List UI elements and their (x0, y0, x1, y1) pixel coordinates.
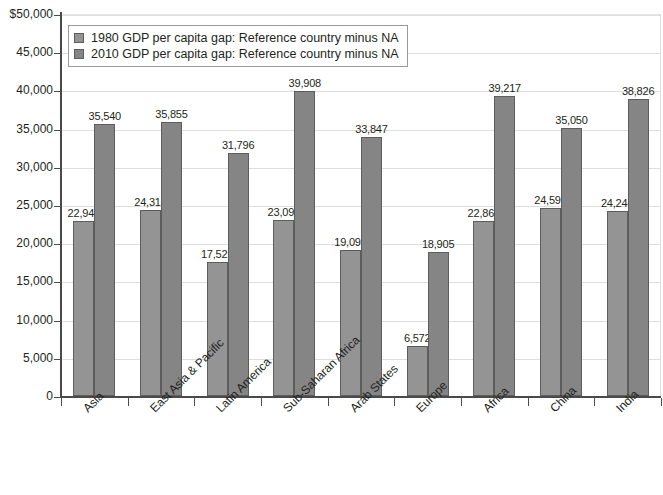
x-axis-tick (261, 398, 262, 406)
bar-chart: 22,94335,54024,31635,85517,52931,79623,0… (0, 0, 663, 495)
y-axis-tick-label: 15,000 (0, 275, 53, 287)
legend-item[interactable]: 1980 GDP per capita gap: Reference count… (74, 30, 399, 46)
y-axis-tick-label: 30,000 (0, 161, 53, 173)
x-axis-tick (661, 398, 662, 406)
chart-legend: 1980 GDP per capita gap: Reference count… (68, 25, 408, 67)
bar-value-label: 38,826 (616, 86, 660, 97)
legend-swatch-icon (74, 33, 84, 43)
x-axis-tick (194, 398, 195, 406)
y-axis-tick-label: 10,000 (0, 314, 53, 326)
x-axis-tick (61, 398, 62, 406)
legend-item-label: 1980 GDP per capita gap: Reference count… (91, 31, 399, 45)
x-axis-tick (328, 398, 329, 406)
legend-item-label: 2010 GDP per capita gap: Reference count… (91, 47, 399, 61)
legend-item[interactable]: 2010 GDP per capita gap: Reference count… (74, 46, 399, 62)
y-axis-tick-label: 0 (0, 390, 53, 402)
x-axis-tick (528, 398, 529, 406)
y-axis-tick-label: 35,000 (0, 123, 53, 135)
plot-area: 22,94335,54024,31635,85517,52931,79623,0… (61, 14, 661, 396)
x-axis-tick (128, 398, 129, 406)
x-axis-tick (394, 398, 395, 406)
y-axis-tick-label: 45,000 (0, 46, 53, 58)
y-axis-labels: $50,00045,00040,00035,00030,00025,00020,… (0, 14, 53, 396)
bar[interactable] (628, 99, 649, 396)
x-axis-tick (594, 398, 595, 406)
y-axis-line (60, 12, 62, 398)
bar-group: 24,24038,826 (61, 15, 661, 396)
y-axis-tick-label: 5,000 (0, 352, 53, 364)
y-axis-tick-label: 25,000 (0, 199, 53, 211)
y-axis-tick-label: $50,000 (0, 8, 53, 20)
bar[interactable] (607, 211, 628, 396)
y-axis-tick-label: 40,000 (0, 84, 53, 96)
legend-swatch-icon (74, 49, 84, 59)
y-axis-tick-label: 20,000 (0, 237, 53, 249)
x-axis-tick (461, 398, 462, 406)
